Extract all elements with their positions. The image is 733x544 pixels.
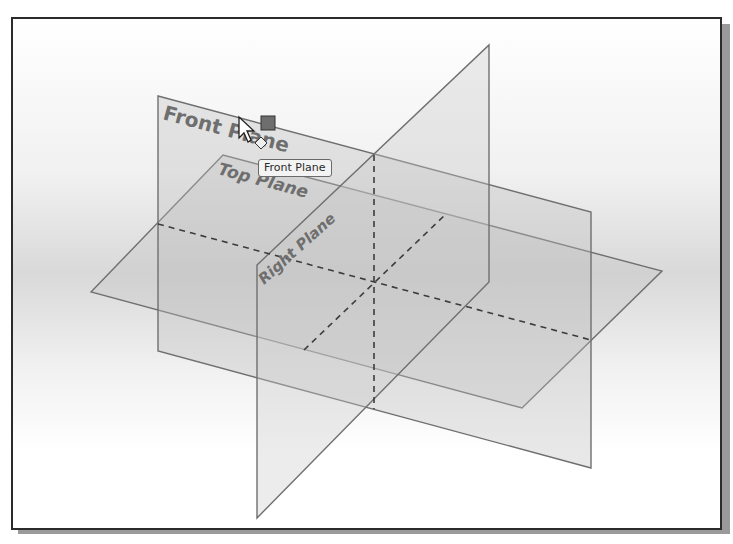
tooltip: Front Plane xyxy=(258,159,332,177)
graphics-viewport[interactable]: Front Plane Top Plane Right Plane Front … xyxy=(11,17,722,530)
plane-scene[interactable]: Front Plane Top Plane Right Plane xyxy=(13,19,720,528)
